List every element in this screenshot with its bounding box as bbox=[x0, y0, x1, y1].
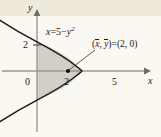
centroid-leader-line bbox=[69, 50, 95, 70]
y-axis-arrow-icon bbox=[34, 9, 41, 16]
centroid-parabola-figure: y x 0 2 2 5 x=5−y2 (x, y)=(2, 0) bbox=[0, 0, 161, 137]
x-bar-symbol: x bbox=[95, 40, 99, 50]
centroid-value: (2, 0) bbox=[117, 39, 138, 49]
y-tick-label-2: 2 bbox=[23, 40, 28, 50]
equation-label: x=5−y2 bbox=[46, 26, 75, 37]
x-tick-label-5: 5 bbox=[112, 77, 117, 87]
equation-exponent: 2 bbox=[71, 25, 75, 33]
x-axis-label: x bbox=[148, 76, 152, 86]
y-bar-symbol: y bbox=[104, 40, 108, 50]
y-axis-label: y bbox=[28, 3, 32, 13]
x-axis-arrow-icon bbox=[144, 68, 151, 75]
plot-canvas bbox=[0, 0, 161, 137]
centroid-label: (x, y)=(2, 0) bbox=[92, 40, 137, 50]
x-tick-label-2: 2 bbox=[64, 77, 69, 87]
origin-label: 0 bbox=[25, 77, 30, 87]
centroid-dot bbox=[66, 69, 70, 73]
